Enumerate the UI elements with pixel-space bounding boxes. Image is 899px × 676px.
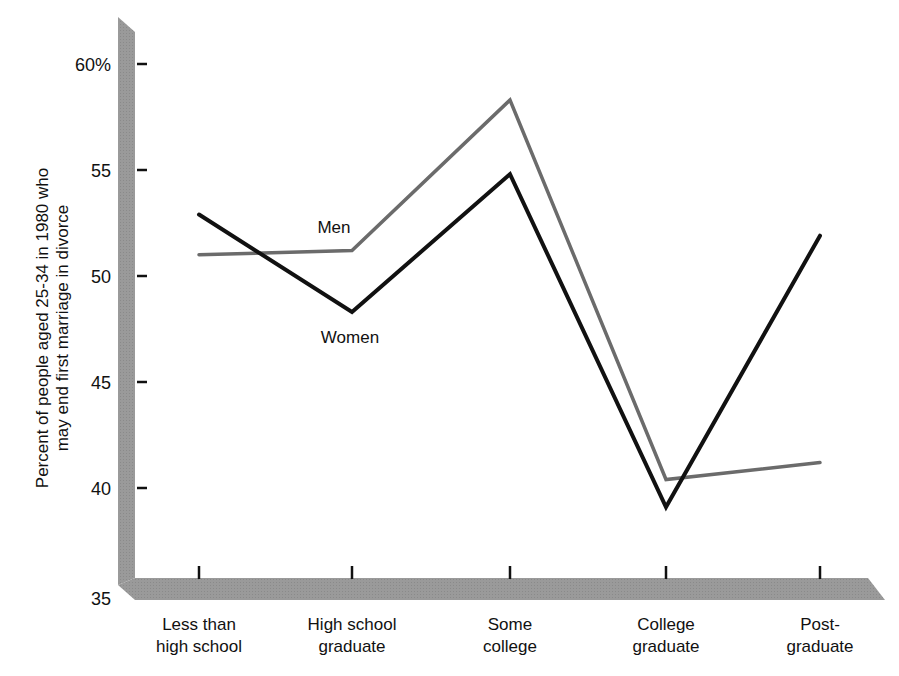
x-category-label: High school bbox=[308, 615, 397, 634]
y-tick-label: 35 bbox=[91, 589, 111, 609]
y-axis-bar bbox=[118, 17, 135, 585]
series-lines bbox=[199, 100, 820, 507]
y-tick-label: 40 bbox=[91, 479, 111, 499]
x-category-label: college bbox=[483, 637, 537, 656]
x-category-label: high school bbox=[156, 637, 242, 656]
series-line-women bbox=[199, 174, 820, 507]
y-tick-label: 50 bbox=[91, 267, 111, 287]
series-label-women: Women bbox=[321, 328, 379, 347]
x-category-label: Less than bbox=[162, 615, 236, 634]
y-axis-label-line: may end first marriage in divorce bbox=[53, 205, 72, 452]
x-category-label: Some bbox=[488, 615, 532, 634]
series-labels: MenWomen bbox=[317, 218, 379, 347]
y-axis-label-line: Percent of people aged 25-34 in 1980 who bbox=[33, 168, 52, 488]
series-line-men bbox=[199, 100, 820, 480]
x-category-label: College bbox=[637, 615, 695, 634]
y-tick-label: 55 bbox=[91, 161, 111, 181]
x-axis-bar bbox=[118, 578, 885, 600]
series-label-men: Men bbox=[317, 218, 350, 237]
x-category-label: graduate bbox=[318, 637, 385, 656]
line-chart: 354045505560% Less thanhigh schoolHigh s… bbox=[0, 0, 899, 676]
y-axis-ticks: 354045505560% bbox=[75, 55, 147, 609]
x-category-label: graduate bbox=[786, 637, 853, 656]
y-axis-label: Percent of people aged 25-34 in 1980 who… bbox=[33, 168, 72, 488]
y-tick-label: 60% bbox=[75, 55, 111, 75]
x-category-label: Post- bbox=[800, 615, 840, 634]
y-tick-label: 45 bbox=[91, 373, 111, 393]
x-category-label: graduate bbox=[632, 637, 699, 656]
